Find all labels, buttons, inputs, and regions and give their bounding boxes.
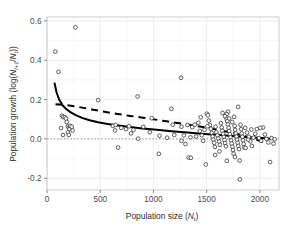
y-axis-title-subscript-1: t+1: [13, 62, 19, 70]
data-point: [250, 144, 254, 148]
data-point: [204, 163, 208, 167]
data-point: [136, 137, 140, 141]
data-point: [132, 128, 136, 132]
data-point: [57, 70, 61, 74]
data-point: [182, 133, 186, 137]
data-point: [59, 126, 63, 130]
x-tick-label: 500: [93, 195, 107, 204]
data-point: [239, 123, 243, 127]
x-axis-tick-labels: 0500100015002000: [45, 195, 270, 204]
data-point: [225, 159, 229, 163]
data-point: [67, 133, 71, 137]
data-point: [157, 152, 161, 156]
data-point: [124, 127, 128, 131]
data-point: [201, 139, 205, 143]
svg-text:Population growth (log(Nt+1/Nt: Population growth (log(Nt+1/Nt)): [8, 46, 19, 162]
scatter-plot-svg: 0500100015002000 -0.20.00.20.40.6 Popula…: [0, 0, 295, 234]
y-tick-label: 0.6: [30, 17, 42, 26]
x-axis-title-close: ): [195, 211, 198, 221]
data-point: [246, 138, 250, 142]
data-point: [193, 123, 197, 127]
data-point: [199, 115, 203, 119]
data-point: [218, 150, 222, 154]
data-point: [70, 125, 74, 129]
data-point: [223, 114, 227, 118]
data-point: [186, 123, 190, 127]
data-point: [179, 76, 183, 80]
y-tick-label: -0.2: [27, 174, 42, 183]
data-point: [213, 145, 217, 149]
data-point: [116, 146, 120, 150]
data-point: [236, 105, 240, 109]
data-point: [230, 120, 234, 124]
data-point: [258, 126, 262, 130]
data-point: [171, 123, 175, 127]
data-point: [249, 128, 253, 132]
data-point: [231, 148, 235, 152]
data-point: [148, 130, 152, 134]
data-point: [241, 135, 245, 139]
y-axis-tick-labels: -0.20.00.20.40.6: [27, 17, 42, 183]
data-point: [129, 132, 133, 136]
data-point: [119, 126, 123, 130]
data-point: [203, 128, 207, 132]
x-tick-label: 1000: [144, 195, 163, 204]
data-point: [245, 131, 249, 135]
plot-panel-background: [47, 17, 279, 190]
data-point: [265, 137, 269, 141]
data-point: [212, 141, 216, 145]
data-point: [240, 132, 244, 136]
data-point: [214, 125, 218, 129]
y-tick-label: 0.4: [30, 56, 42, 65]
data-point: [239, 127, 243, 131]
data-point: [267, 141, 271, 145]
data-point: [219, 121, 223, 125]
figure-container: 0500100015002000 -0.20.00.20.40.6 Popula…: [0, 0, 295, 234]
data-point: [158, 134, 162, 138]
data-point: [207, 119, 211, 123]
data-point: [113, 129, 117, 133]
data-point: [273, 137, 277, 141]
data-point: [198, 129, 202, 133]
data-point: [263, 133, 267, 137]
data-point: [224, 145, 228, 149]
data-point: [233, 124, 237, 128]
data-point: [233, 128, 237, 132]
data-point: [241, 139, 245, 143]
y-tick-label: 0.2: [30, 96, 42, 105]
data-point: [227, 117, 231, 121]
data-point: [237, 147, 241, 151]
y-axis-title: Population growth (log(Nt+1/Nt)): [8, 46, 19, 162]
data-point: [252, 136, 256, 140]
data-point: [189, 156, 193, 160]
x-axis-title-main: Population size (: [126, 211, 188, 221]
data-point: [136, 95, 140, 99]
data-point: [189, 135, 193, 139]
data-point: [170, 107, 174, 111]
svg-text:Population size (Nt): Population size (Nt): [126, 211, 199, 222]
data-point: [232, 115, 236, 119]
data-point: [238, 159, 242, 163]
data-point: [259, 139, 263, 143]
x-tick-label: 2000: [251, 195, 270, 204]
data-point: [268, 160, 272, 164]
data-point: [253, 132, 257, 136]
data-point: [206, 113, 210, 117]
data-point: [272, 142, 276, 146]
data-point: [65, 120, 69, 124]
y-axis-title-main: Population growth (log(: [8, 75, 18, 161]
data-point: [194, 135, 198, 139]
x-tick-label: 0: [45, 195, 50, 204]
y-tick-label: 0.0: [30, 135, 42, 144]
data-point: [141, 125, 145, 129]
y-axis-title-close: )): [8, 46, 18, 52]
data-point: [243, 126, 247, 130]
data-point: [96, 98, 100, 102]
x-axis-title: Population size (Nt): [126, 211, 199, 222]
data-point: [242, 142, 246, 146]
data-point: [127, 124, 131, 128]
data-point: [180, 125, 184, 129]
data-point: [172, 133, 176, 137]
data-point: [74, 26, 78, 30]
data-point: [200, 133, 204, 137]
